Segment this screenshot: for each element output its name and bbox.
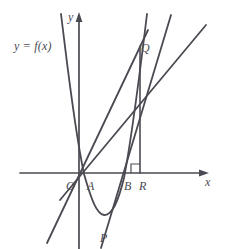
point-label-Q: Q (141, 42, 150, 54)
x-axis-label: x (205, 176, 210, 188)
figure-container: y = f(x) x y O A B R P Q (0, 0, 227, 249)
y-axis-arrowhead (76, 12, 83, 22)
right-angle-marker (131, 164, 140, 173)
line-through-B (101, 15, 171, 248)
point-label-B: B (124, 180, 131, 192)
point-label-P: P (100, 232, 107, 244)
y-axis-label: y (68, 11, 73, 23)
function-label: y = f(x) (14, 40, 52, 52)
x-axis (20, 170, 209, 177)
graph-canvas (0, 0, 227, 249)
point-label-A: A (87, 180, 94, 192)
point-label-R: R (139, 180, 146, 192)
point-label-O: O (66, 180, 75, 192)
